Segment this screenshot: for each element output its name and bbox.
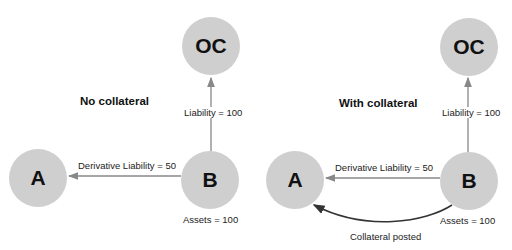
edge-label-liability: Liability = 100	[441, 107, 501, 118]
node-a: A	[9, 149, 67, 207]
edge-label-liability: Liability = 100	[183, 107, 243, 118]
node-a-label: A	[287, 168, 302, 192]
node-a-label: A	[30, 166, 45, 190]
node-a: A	[266, 151, 324, 209]
node-b-label: B	[461, 169, 476, 193]
node-b-assets-note: Assets = 100	[440, 215, 495, 226]
node-b-assets-note: Assets = 100	[183, 214, 238, 225]
node-oc: OC	[440, 18, 498, 76]
node-oc: OC	[182, 17, 240, 75]
edge-label-collateral-posted: Collateral posted	[350, 231, 421, 242]
node-b: B	[181, 151, 239, 209]
node-b-label: B	[202, 168, 217, 192]
panel-with-collateral: With collateral OC A B Liability = 100 D…	[256, 0, 512, 250]
node-oc-label: OC	[453, 35, 485, 59]
edge-label-derivative-liability: Derivative Liability = 50	[335, 162, 433, 173]
panel-no-collateral: No collateral OC A B Liability = 100 Der…	[0, 0, 256, 250]
edge-label-derivative-liability: Derivative Liability = 50	[78, 160, 176, 171]
panel-title: No collateral	[80, 95, 149, 107]
node-b: B	[440, 152, 498, 210]
arrow-collateral-posted	[314, 205, 452, 222]
node-oc-label: OC	[195, 34, 227, 58]
panel-title: With collateral	[339, 97, 418, 109]
